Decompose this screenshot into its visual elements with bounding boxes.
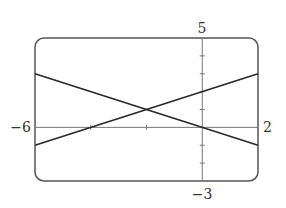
xmin-label: −6 [10,119,31,135]
plotted-lines [35,74,258,146]
ymin-label: −3 [192,186,213,202]
graph-window: 5 −3 −6 2 [0,0,286,208]
ymax-label: 5 [198,20,207,36]
xmax-label: 2 [263,119,272,135]
